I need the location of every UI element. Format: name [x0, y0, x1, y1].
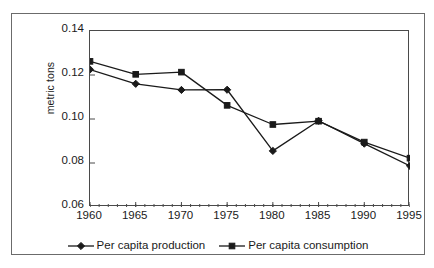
legend-square-marker-icon — [219, 241, 245, 251]
y-tick-label: 0.08 — [38, 154, 84, 166]
legend-entry: Per capita production — [68, 240, 206, 252]
chart-plot-svg — [90, 31, 410, 207]
y-tick-label: 0.12 — [38, 66, 84, 78]
x-tick-label: 1995 — [379, 209, 434, 221]
legend-label: Per capita production — [97, 240, 206, 252]
chart-legend: Per capita productionPer capita consumpt… — [11, 236, 425, 255]
y-axis-tick-labels: 0.060.080.100.120.14 — [30, 0, 84, 268]
legend-diamond-marker-icon — [68, 241, 94, 251]
y-tick-label: 0.14 — [38, 22, 84, 34]
legend-label: Per capita consumption — [248, 240, 368, 252]
chart-figure: metric tons 0.060.080.100.120.14 1960196… — [0, 0, 434, 268]
y-tick-label: 0.10 — [38, 110, 84, 122]
plot-area — [89, 30, 409, 206]
x-axis-tick-labels: 19601965197019751980198519901995 — [89, 209, 409, 227]
legend-entry: Per capita consumption — [219, 240, 368, 252]
